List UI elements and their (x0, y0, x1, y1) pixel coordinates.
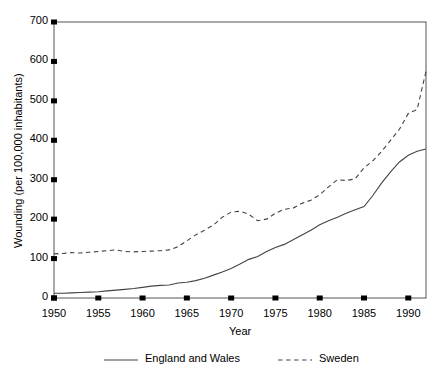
legend-label: Sweden (319, 352, 359, 364)
legend-swatches (0, 0, 438, 377)
legend-label: England and Wales (145, 352, 240, 364)
wounding-rate-line-chart: Wounding (per 100,000 inhabitants) Year … (0, 0, 438, 377)
